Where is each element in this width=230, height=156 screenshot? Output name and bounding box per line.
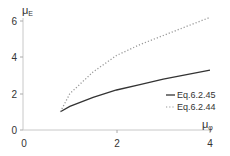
legend: Eq.6.2.45 Eq.6.2.44 — [166, 90, 216, 112]
x-tick-label: 2 — [114, 138, 120, 149]
x-tick-label: 4 — [207, 138, 213, 149]
chart: 0 2 4 6 0 2 4 μE μφ Eq.6.2.45 Eq.6.2.44 — [0, 0, 230, 156]
y-axis-label: μE — [22, 4, 33, 17]
legend-label: Eq.6.2.44 — [177, 102, 216, 112]
y-tick-label: 2 — [11, 89, 17, 100]
y-tick-label: 6 — [11, 16, 17, 27]
y-tick-label: 4 — [11, 52, 17, 63]
y-ticks: 0 2 4 6 — [11, 16, 23, 136]
y-tick-label: 0 — [11, 125, 17, 136]
x-axis-label: μφ — [202, 118, 213, 132]
x-tick-label: 0 — [21, 138, 27, 149]
legend-label: Eq.6.2.45 — [177, 90, 216, 100]
x-ticks: 0 2 4 — [21, 130, 213, 149]
